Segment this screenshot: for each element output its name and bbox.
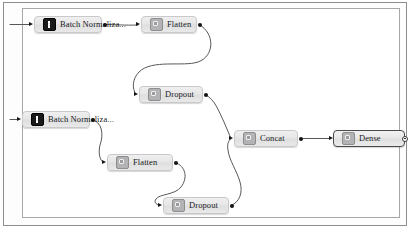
concat-icon	[243, 132, 256, 145]
flatten-icon	[116, 156, 129, 169]
dropout-icon	[172, 199, 185, 212]
node-label: Dropout	[189, 201, 225, 210]
node-batch-normalization-bottom[interactable]: Batch Normaliza...	[22, 111, 90, 128]
node-flatten-top[interactable]: Flatten	[141, 16, 197, 33]
node-label: Flatten	[133, 158, 164, 167]
node-label: Batch Normaliza...	[60, 20, 133, 29]
node-dropout-bottom[interactable]: Dropout	[163, 197, 229, 214]
node-dropout-top[interactable]: Dropout	[139, 86, 203, 103]
batch-normalization-icon	[31, 113, 44, 126]
node-batch-normalization-top[interactable]: Batch Normaliza...	[34, 16, 102, 33]
node-label: Batch Normaliza...	[48, 115, 121, 124]
dense-icon	[342, 132, 355, 145]
node-label: Flatten	[167, 20, 198, 29]
node-label: Dropout	[165, 90, 201, 99]
dropout-icon	[148, 88, 161, 101]
node-dense[interactable]: Dense	[333, 130, 405, 147]
flatten-icon	[150, 18, 163, 31]
node-label: Concat	[260, 134, 292, 143]
node-concat[interactable]: Concat	[234, 130, 298, 147]
batch-normalization-icon	[43, 18, 56, 31]
node-flatten-bottom[interactable]: Flatten	[107, 154, 173, 171]
node-label: Dense	[359, 134, 388, 143]
model-graph-screenshot: Batch Normaliza... Flatten Dropout Batch…	[0, 0, 410, 229]
